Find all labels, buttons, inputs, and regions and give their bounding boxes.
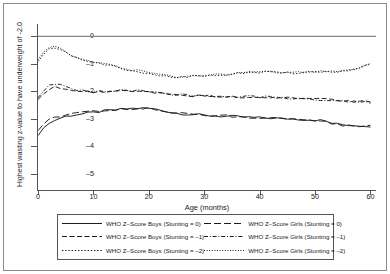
legend-item-label: WHO Z–Score Girls (Stunting = –2)	[248, 247, 345, 254]
legend-item-label: WHO Z–Score Girls (Stunting = 0)	[248, 220, 342, 227]
legend-item-label: WHO Z–Score Girls (Stunting = –1)	[248, 233, 345, 240]
legend-item[interactable]: WHO Z–Score Boys (Stunting = 0)	[62, 217, 204, 230]
series-line	[38, 84, 370, 103]
x-tick-label: 0	[26, 193, 50, 201]
y-tick-mark	[31, 64, 37, 65]
y-tick-mark	[31, 36, 37, 37]
legend-line-swatch	[62, 232, 102, 241]
x-tick-label: 40	[248, 193, 272, 201]
series-line	[38, 48, 370, 78]
y-tick-mark	[31, 146, 37, 147]
legend-line-swatch	[204, 232, 244, 241]
legend-line-swatch	[62, 219, 102, 228]
series-canvas	[38, 24, 376, 190]
x-tick-label: 10	[81, 193, 105, 201]
legend-line-swatch	[204, 219, 244, 228]
legend-item[interactable]: WHO Z–Score Boys (Stunting = –1)	[62, 230, 204, 243]
legend-line-swatch	[204, 246, 244, 255]
chart-screenshot: Highest wasting z-value to have underwei…	[0, 0, 390, 274]
series-line	[38, 86, 370, 102]
legend-item-label: WHO Z–Score Boys (Stunting = –2)	[106, 247, 204, 254]
x-axis-line	[37, 190, 376, 191]
legend-item-label: WHO Z–Score Boys (Stunting = 0)	[106, 220, 201, 227]
legend-line-swatch	[62, 246, 102, 255]
legend-item[interactable]: WHO Z–Score Girls (Stunting = 0)	[204, 217, 345, 230]
series-line	[38, 108, 370, 136]
y-tick-mark	[31, 91, 37, 92]
series-line	[38, 107, 370, 130]
y-axis-title: Highest wasting z-value to have underwei…	[15, 20, 24, 190]
x-axis-title: Age (months)	[38, 203, 376, 212]
plot-area	[38, 24, 376, 190]
legend-item-label: WHO Z–Score Boys (Stunting = –1)	[106, 233, 204, 240]
legend-item[interactable]: WHO Z–Score Boys (Stunting = –2)	[62, 244, 204, 257]
x-tick-label: 20	[137, 193, 161, 201]
x-tick-label: 50	[303, 193, 327, 201]
x-tick-label: 60	[358, 193, 382, 201]
y-tick-mark	[31, 174, 37, 175]
legend-item[interactable]: WHO Z–Score Girls (Stunting = –2)	[204, 244, 345, 257]
y-tick-mark	[31, 119, 37, 120]
legend-item[interactable]: WHO Z–Score Girls (Stunting = –1)	[204, 230, 345, 243]
legend: WHO Z–Score Boys (Stunting = 0)WHO Z–Sco…	[57, 214, 334, 260]
x-tick-label: 30	[192, 193, 216, 201]
